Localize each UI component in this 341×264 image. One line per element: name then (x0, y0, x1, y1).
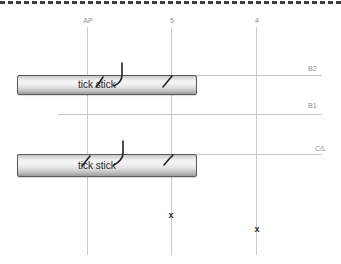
tick-stick-lower-label: tick stick (78, 160, 116, 171)
x-marker-station-5: x (165, 210, 177, 220)
tick-stick-upper-label: tick stick (78, 79, 116, 90)
station-label-5: 5 (170, 17, 174, 24)
baseline-label-b2: B2 (308, 65, 317, 72)
station-line-5 (171, 27, 172, 255)
x-marker-station-4: x (251, 224, 263, 234)
baseline-b1 (58, 114, 322, 115)
diagram-canvas: AP 5 4 B2 B1 C/L tick stick tick stick x… (0, 0, 341, 264)
baseline-label-b1: B1 (308, 102, 317, 109)
station-label-4: 4 (255, 17, 259, 24)
station-line-ap (87, 27, 88, 255)
dashed-border-line (0, 1, 341, 4)
station-line-4 (256, 27, 257, 255)
tick-stick-lower: tick stick (17, 154, 197, 177)
station-label-ap: AP (83, 17, 92, 24)
baseline-label-cl: C/L (315, 145, 326, 152)
tick-stick-upper: tick stick (17, 75, 197, 95)
